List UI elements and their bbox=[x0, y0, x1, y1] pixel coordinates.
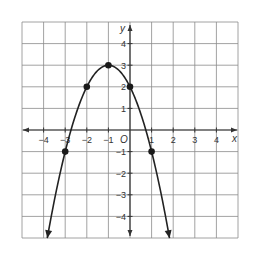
x-axis-label: x bbox=[231, 133, 238, 144]
x-tick-label: 4 bbox=[214, 135, 219, 145]
y-axis-down-arrow-icon bbox=[128, 230, 133, 236]
y-tick-label: −2 bbox=[116, 169, 126, 179]
axes bbox=[23, 25, 237, 236]
y-tick-label: 4 bbox=[121, 39, 126, 49]
x-tick-label: −4 bbox=[38, 135, 48, 145]
x-tick-label: 2 bbox=[171, 135, 176, 145]
x-axis-left-arrow-icon bbox=[23, 128, 29, 133]
data-point bbox=[84, 84, 91, 91]
right-curve-arrow-icon bbox=[165, 230, 172, 238]
x-tick-label: −1 bbox=[103, 135, 113, 145]
y-tick-label: 1 bbox=[121, 104, 126, 114]
left-curve-arrow-icon bbox=[45, 230, 52, 238]
data-point bbox=[62, 148, 69, 155]
x-tick-label: −2 bbox=[82, 135, 92, 145]
y-axis-label: y bbox=[119, 23, 126, 34]
y-tick-label: −3 bbox=[116, 190, 126, 200]
y-axis-up-arrow-icon bbox=[128, 25, 133, 31]
y-tick-label: 3 bbox=[121, 61, 126, 71]
y-tick-label: 2 bbox=[121, 82, 126, 92]
y-tick-label: −4 bbox=[116, 212, 126, 222]
y-tick-label: −1 bbox=[116, 147, 126, 157]
parabola-graph: −4−3−2−112344321−1−2−3−4 x y O bbox=[0, 0, 253, 257]
data-point bbox=[148, 148, 155, 155]
data-point bbox=[127, 84, 134, 91]
origin-label: O bbox=[120, 134, 128, 145]
x-axis-right-arrow-icon bbox=[231, 128, 237, 133]
x-tick-label: 3 bbox=[192, 135, 197, 145]
data-point bbox=[105, 62, 112, 69]
